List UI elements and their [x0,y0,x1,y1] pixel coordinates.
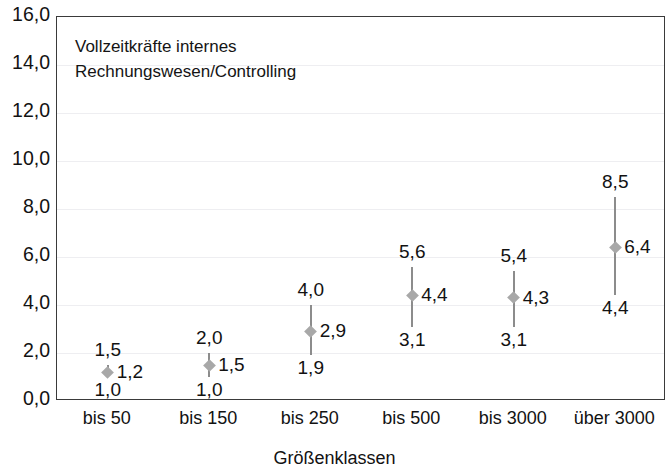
x-axis-category-label: bis 3000 [479,408,547,429]
y-axis-tick-label: 6,0 [0,243,50,266]
min-value-label: 3,1 [501,329,527,351]
y-axis-tick-label: 16,0 [0,3,50,26]
x-axis-category-label: bis 500 [382,408,440,429]
y-axis-tick-label: 12,0 [0,99,50,122]
max-value-label: 1,5 [95,339,121,361]
gridline [57,353,664,354]
max-value-label: 5,6 [399,241,425,263]
plot-annotation: Vollzeitkräfte internes Rechnungswesen/C… [75,35,296,84]
min-value-label: 1,9 [298,357,324,379]
min-value-label: 3,1 [399,329,425,351]
y-axis-tick-label: 14,0 [0,51,50,74]
gridline [57,257,664,258]
max-value-label: 2,0 [196,327,222,349]
annotation-line-2: Rechnungswesen/Controlling [75,60,296,85]
min-value-label: 1,0 [196,379,222,401]
mean-value-label: 1,5 [218,354,244,376]
mean-value-label: 4,4 [421,284,447,306]
gridline [57,305,664,306]
chart-container: 0,02,04,06,08,010,012,014,016,0 Vollzeit… [0,0,669,475]
mean-marker [406,289,419,302]
mean-marker [101,366,114,379]
mean-marker [304,325,317,338]
x-axis-category-label: bis 50 [83,408,131,429]
gridline [57,161,664,162]
x-axis-category-label: bis 250 [281,408,339,429]
mean-value-label: 4,3 [523,287,549,309]
mean-value-label: 6,4 [624,236,650,258]
annotation-line-1: Vollzeitkräfte internes [75,35,296,60]
y-axis-tick-label: 0,0 [0,387,50,410]
mean-marker [609,241,622,254]
mean-value-label: 2,9 [320,320,346,342]
min-value-label: 4,4 [602,297,628,319]
y-axis-tick-label: 10,0 [0,147,50,170]
max-value-label: 8,5 [602,171,628,193]
gridline [57,113,664,114]
y-axis-tick-label: 2,0 [0,339,50,362]
x-axis-category-label: über 3000 [574,408,655,429]
plot-area: Vollzeitkräfte internes Rechnungswesen/C… [56,16,665,400]
x-axis-title: Größenklassen [0,448,669,469]
gridline [57,209,664,210]
mean-marker [507,291,520,304]
x-axis-category-label: bis 150 [179,408,237,429]
mean-marker [203,359,216,372]
max-value-label: 5,4 [501,245,527,267]
max-value-label: 4,0 [298,279,324,301]
y-axis-tick-label: 8,0 [0,195,50,218]
y-axis-tick-label: 4,0 [0,291,50,314]
mean-value-label: 1,2 [117,361,143,383]
